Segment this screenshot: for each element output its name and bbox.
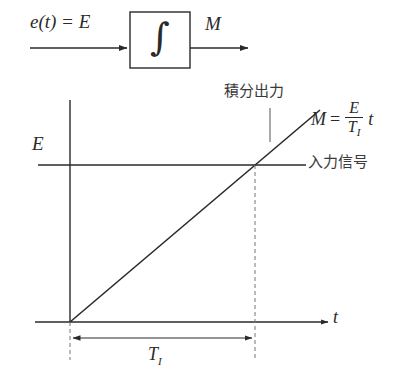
t-axis-label: t	[333, 308, 338, 326]
ramp-equation-denominator: TI	[346, 118, 363, 138]
integrator-response-figure: e(t) = E ∫ M E t 積分出力 入力信号 M = E TI t TI	[0, 0, 407, 383]
figure-vector-layer	[0, 0, 407, 383]
ramp-equation-numerator: E	[347, 100, 361, 117]
input-level-axis-label: E	[32, 134, 44, 153]
input-signal-annotation: 入力信号	[308, 155, 368, 170]
integral-output-annotation: 積分出力	[224, 84, 284, 99]
time-constant-label-subscript: I	[158, 355, 162, 367]
ramp-equation-denominator-subscript: I	[357, 126, 361, 138]
integral-sign-icon: ∫	[150, 18, 170, 56]
ramp-equation: M = E TI t	[311, 100, 373, 138]
ramp-equation-variable: t	[368, 110, 373, 128]
block-output-label: M	[205, 14, 221, 33]
ramp-output-line	[70, 110, 320, 322]
ramp-equation-fraction: E TI	[345, 100, 363, 138]
time-constant-label: TI	[148, 345, 162, 367]
block-input-label: e(t) = E	[30, 12, 90, 31]
time-constant-label-base: T	[148, 344, 158, 364]
ramp-equation-denominator-base: T	[348, 118, 357, 135]
ramp-equation-equals: =	[330, 110, 340, 128]
ramp-equation-M: M	[311, 110, 326, 128]
block-input-label-text: e(t) = E	[30, 11, 90, 32]
